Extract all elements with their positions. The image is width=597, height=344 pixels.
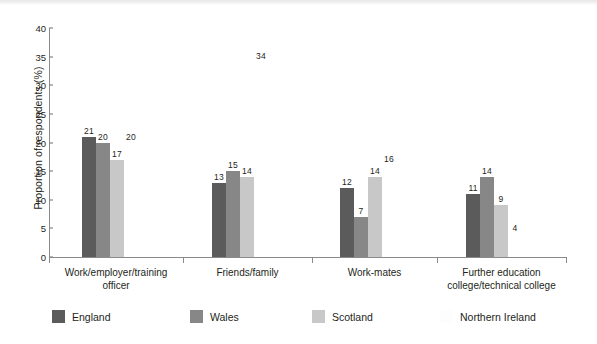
x-axis-label-line: Work-mates [312,266,437,279]
bar[interactable] [340,188,354,257]
x-axis-line [49,257,566,258]
legend-item-england[interactable]: England [52,310,111,323]
bar-value-label: 11 [460,183,486,193]
bar-value-label: 34 [248,51,274,61]
x-axis-separator-tick [183,257,184,263]
x-axis-label: Friends/family [183,266,312,279]
legend-label: Scotland [332,311,373,323]
bar-chart: Proportion of respondents (%) 0510152025… [0,0,597,344]
bar-groups [49,28,566,257]
bar[interactable] [110,160,124,257]
bar-group [212,28,268,257]
legend-label: Northern Ireland [460,311,536,323]
bar-value-label: 14 [234,166,260,176]
bar[interactable] [212,183,226,257]
x-axis-label-line: officer [49,279,183,292]
bar-value-label: 20 [90,132,116,142]
legend-swatch [190,310,203,323]
bar-value-label: 9 [488,194,514,204]
x-axis-label-line: Friends/family [183,266,312,279]
bar[interactable] [96,143,110,258]
plot-area [49,28,566,257]
y-tick-label-0: 0 [0,252,46,263]
legend-swatch [440,310,453,323]
legend-label: Wales [210,311,239,323]
y-tick-label-20: 20 [0,137,46,148]
bar-value-label: 7 [348,206,374,216]
bar[interactable] [382,165,396,257]
x-axis-label-line: college/technical college [437,279,566,292]
bar-value-label: 13 [206,172,232,182]
bar-value-label: 12 [334,177,360,187]
x-axis-separator-tick [437,257,438,263]
bar-value-label: 4 [502,223,528,233]
bar[interactable] [254,62,268,257]
bar-group [340,28,396,257]
y-tick-label-15: 15 [0,166,46,177]
y-tick-label-25: 25 [0,108,46,119]
bar[interactable] [368,177,382,257]
x-axis-label-line: Further education [437,266,566,279]
y-tick-label-10: 10 [0,194,46,205]
bar[interactable] [508,234,522,257]
legend-item-scotland[interactable]: Scotland [312,310,373,323]
bar[interactable] [226,171,240,257]
legend-swatch [312,310,325,323]
y-tick-label-5: 5 [0,223,46,234]
legend-item-northern-ireland[interactable]: Northern Ireland [440,310,536,323]
bar[interactable] [124,143,138,258]
bar-value-label: 14 [474,166,500,176]
bar-value-label: 16 [376,154,402,164]
bar[interactable] [82,137,96,257]
x-axis-label: Work/employer/trainingofficer [49,266,183,292]
y-tick-label-30: 30 [0,80,46,91]
y-tick-label-35: 35 [0,51,46,62]
bar-value-label: 20 [118,132,144,142]
bar-value-label: 14 [362,166,388,176]
legend-item-wales[interactable]: Wales [190,310,239,323]
bar-value-label: 17 [104,149,130,159]
x-axis-separator-tick [566,257,567,263]
x-axis-label-line: Work/employer/training [49,266,183,279]
bar[interactable] [466,194,480,257]
bar[interactable] [354,217,368,257]
bar-group [82,28,138,257]
x-axis-label: Further educationcollege/technical colle… [437,266,566,292]
x-axis-label: Work-mates [312,266,437,279]
bar[interactable] [240,177,254,257]
x-axis-separator-tick [312,257,313,263]
legend-label: England [72,311,111,323]
y-tick-label-40: 40 [0,23,46,34]
x-axis-separator-tick [49,257,50,263]
legend-swatch [52,310,65,323]
